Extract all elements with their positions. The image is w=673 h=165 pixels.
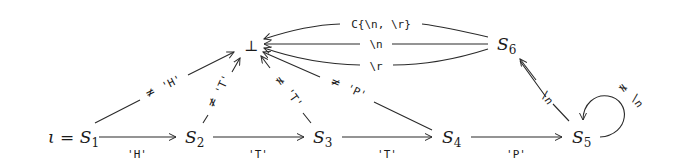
edge-label-s6-bottom-class: C{\n, \r} bbox=[351, 18, 411, 31]
node-s1: ι = S1 bbox=[48, 127, 99, 150]
edge-label-s5-self: \n bbox=[628, 92, 646, 110]
svg-text:S2: S2 bbox=[185, 127, 204, 150]
edge-neg-s3-bottom: ≠ bbox=[272, 73, 289, 89]
edge-s3-bottom bbox=[261, 56, 311, 123]
edge-neg-s5-self: ≠ bbox=[615, 80, 632, 96]
node-s3: S3 bbox=[313, 127, 332, 150]
node-s5: S5 bbox=[572, 127, 591, 150]
edge-label-s6-bottom-return: \r bbox=[369, 60, 383, 73]
edge-label-s6-bottom-newline: \n bbox=[369, 38, 382, 51]
edge-label-s4-bottom: 'P' bbox=[345, 82, 369, 102]
node-bottom: ⊥ bbox=[244, 37, 258, 55]
edge-label-s1-s2: 'H' bbox=[127, 148, 147, 161]
svg-text:S3: S3 bbox=[313, 127, 332, 150]
node-s2: S2 bbox=[185, 127, 204, 150]
node-s4: S4 bbox=[442, 127, 462, 150]
node-s6: S6 bbox=[497, 34, 516, 57]
edge-neg-s1-bottom: ≠ bbox=[143, 84, 158, 101]
svg-text:S5: S5 bbox=[572, 127, 591, 150]
edge-label-s1-bottom: 'H' bbox=[160, 73, 184, 94]
edge-s5-self-loop bbox=[583, 96, 624, 137]
initial-prefix: ι = bbox=[48, 127, 80, 147]
edge-neg-s2-bottom: ≠ bbox=[204, 95, 221, 110]
edge-label-s3-bottom: 'T' bbox=[283, 86, 305, 110]
edge-label-s2-bottom: 'T' bbox=[213, 73, 233, 97]
state-diagram: ι = S1 S2 S3 S4 S5 S6 ⊥ 'H' 'T' 'T' 'P' … bbox=[0, 0, 673, 165]
edge-neg-s4-bottom: ≠ bbox=[328, 74, 343, 91]
edge-label-s4-s5: 'P' bbox=[506, 148, 526, 161]
svg-text:ι = S1: ι = S1 bbox=[48, 127, 99, 150]
edge-label-s2-s3: 'T' bbox=[248, 148, 268, 161]
svg-text:S6: S6 bbox=[497, 34, 516, 57]
edge-label-s3-s4: 'T' bbox=[377, 148, 397, 161]
svg-text:S4: S4 bbox=[442, 127, 462, 150]
